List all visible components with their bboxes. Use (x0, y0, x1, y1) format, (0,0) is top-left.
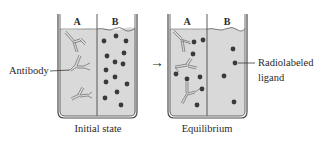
compartment-label-equilibrium-a: A (183, 17, 190, 27)
radiolabeled-ligand-label-line1: Radiolabeled (258, 58, 313, 69)
radiolabeled-ligand-label-line2: ligand (258, 73, 284, 84)
compartment-label-equilibrium-b: B (224, 17, 231, 27)
antibody-label: Antibody (9, 66, 49, 77)
caption-initial-state: Initial state (75, 124, 122, 135)
beaker-initial-state (50, 14, 137, 118)
transition-arrow-icon: → (150, 56, 164, 70)
beaker-equilibrium (168, 14, 255, 118)
compartment-label-initial-a: A (73, 17, 80, 27)
compartment-label-initial-b: B (112, 17, 119, 27)
caption-equilibrium: Equilibrium (182, 124, 233, 135)
